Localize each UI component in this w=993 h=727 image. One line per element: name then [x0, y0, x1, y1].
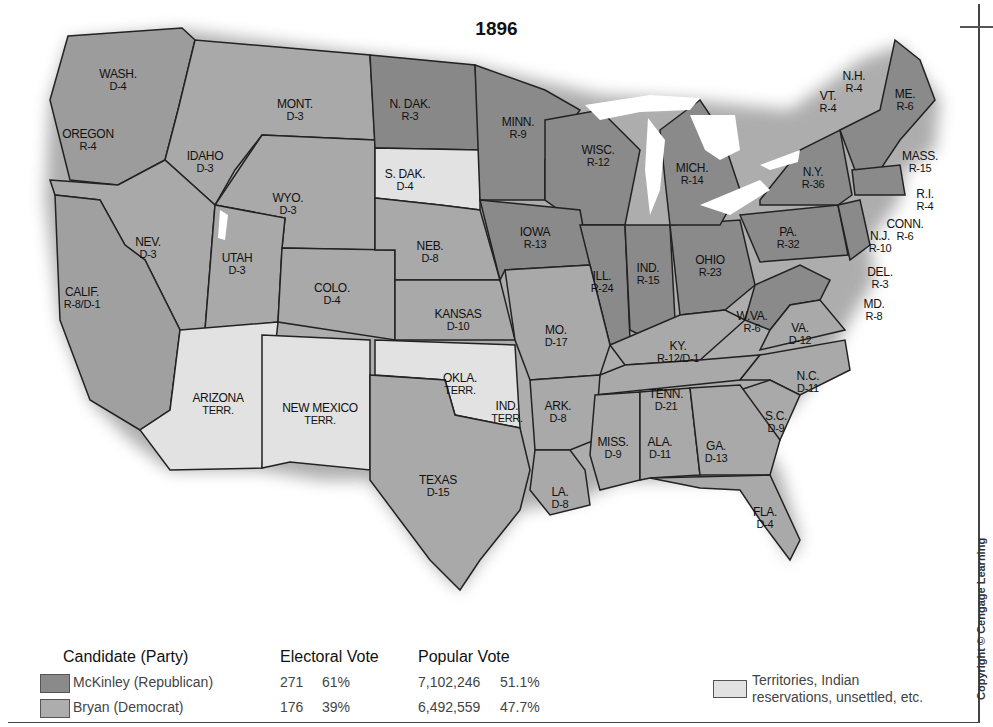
- republican-swatch: [40, 674, 70, 693]
- state-label: MD.R-8: [834, 298, 914, 322]
- state-label: IOWAR-13: [495, 226, 575, 250]
- legend-ev-pct: 39%: [322, 699, 350, 715]
- state-label: NEV.D-3: [108, 236, 188, 260]
- state-label: ARIZONATERR.: [178, 392, 258, 416]
- state-label: ME.R-6: [865, 88, 945, 112]
- legend-ev: 176: [280, 699, 303, 715]
- state-label: DEL.R-3: [840, 266, 920, 290]
- state-label: MONT.D-3: [255, 98, 335, 122]
- state-label: IDAHOD-3: [165, 150, 245, 174]
- legend-pv: 6,492,559: [418, 699, 480, 715]
- state-label: COLO.D-4: [292, 282, 372, 306]
- state-label: S. DAK.D-4: [365, 168, 445, 192]
- state-label: UTAHD-3: [197, 252, 277, 276]
- state-label: PA.R-32: [748, 226, 828, 250]
- legend-territories-line2: reservations, unsettled, etc.: [752, 689, 923, 705]
- state-label: FLA.D-4: [725, 506, 805, 530]
- state-label: KANSASD-10: [418, 308, 498, 332]
- map-title: 1896: [0, 18, 993, 40]
- state-label: S.C.D-9: [736, 410, 816, 434]
- state-label: WASH.D-4: [78, 68, 158, 92]
- legend-candidate-mckinley: McKinley (Republican): [73, 674, 213, 690]
- state-label: WYO.D-3: [248, 192, 328, 216]
- copyright: Copyright © Cengage Learning: [975, 538, 987, 700]
- state-label: N.C.D-11: [768, 370, 848, 394]
- legend-pv-pct: 47.7%: [500, 699, 540, 715]
- state-label: OREGONR-4: [48, 128, 128, 152]
- democrat-swatch: [40, 699, 70, 718]
- state-label: TEXASD-15: [398, 474, 478, 498]
- state-label: LA.D-8: [520, 486, 600, 510]
- state-label: OKLA.TERR.: [420, 372, 500, 396]
- state-label: R.I.R-4: [885, 188, 965, 212]
- state-label: MINN.R-9: [478, 116, 558, 140]
- state-label: MO.D-17: [516, 324, 596, 348]
- state-label: WISC.R-12: [558, 144, 638, 168]
- state-label: OHIOR-23: [670, 254, 750, 278]
- territory-swatch: [713, 680, 747, 698]
- state-label: ARK.D-8: [518, 400, 598, 424]
- legend-ev-pct: 61%: [322, 674, 350, 690]
- state-label: NEB.D-8: [390, 240, 470, 264]
- legend-candidate-header: Candidate (Party): [63, 648, 188, 666]
- state-label: NEW MEXICOTERR.: [280, 402, 360, 426]
- legend-electoral-header: Electoral Vote: [280, 648, 379, 666]
- state-label: TENN.D-21: [626, 388, 706, 412]
- state-label: N.Y.R-36: [773, 166, 853, 190]
- state-label: GA.D-13: [676, 440, 756, 464]
- state-label: N. DAK.R-3: [370, 98, 450, 122]
- state-label: VA.D-12: [760, 322, 840, 346]
- legend-pv-pct: 51.1%: [500, 674, 540, 690]
- legend-territories-line1: Territories, Indian: [752, 672, 859, 688]
- state-label: KY.R-12/D-1: [638, 340, 718, 364]
- state-label: MICH.R-14: [652, 162, 732, 186]
- legend-popular-header: Popular Vote: [418, 648, 510, 666]
- state-label: N.J.R-10: [840, 230, 920, 254]
- state-label: MASS.R-15: [880, 150, 960, 174]
- state-label: CALIF.R-8/D-1: [42, 286, 122, 310]
- legend-ev: 271: [280, 674, 303, 690]
- legend-candidate-bryan: Bryan (Democrat): [73, 699, 183, 715]
- legend-pv: 7,102,246: [418, 674, 480, 690]
